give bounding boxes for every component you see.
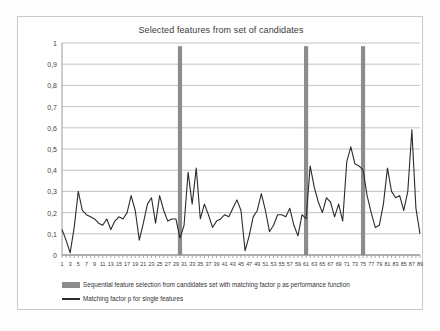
x-axis-tick-label: 45 bbox=[238, 261, 244, 267]
legend-bar-label: Sequential feature selection from candid… bbox=[83, 281, 350, 289]
x-axis-tick-label: 87 bbox=[409, 261, 415, 267]
x-axis-tick-label: 25 bbox=[157, 261, 163, 267]
legend-bar-swatch-icon bbox=[62, 282, 80, 288]
y-axis-tick-label: 0,7 bbox=[47, 104, 57, 111]
y-axis-tick-label: 0,3 bbox=[47, 188, 57, 195]
x-axis-tick-label: 27 bbox=[165, 261, 171, 267]
plot-area: 00,10,20,30,40,50,60,70,80,9113579111315… bbox=[18, 17, 424, 311]
x-axis-tick-label: 55 bbox=[279, 261, 285, 267]
selected-feature-bar bbox=[304, 46, 308, 255]
x-axis-tick-label: 53 bbox=[271, 261, 277, 267]
y-axis-tick-label: 0,2 bbox=[47, 210, 57, 217]
x-axis-tick-label: 41 bbox=[222, 261, 228, 267]
x-axis-tick-label: 5 bbox=[77, 261, 80, 267]
x-axis-tick-label: 43 bbox=[230, 261, 236, 267]
x-axis-tick-label: 13 bbox=[108, 261, 114, 267]
plot-svg: 00,10,20,30,40,50,60,70,80,9113579111315… bbox=[18, 17, 424, 311]
x-axis-tick-label: 11 bbox=[100, 261, 106, 267]
x-axis-tick-label: 85 bbox=[401, 261, 407, 267]
legend-item-bar: Sequential feature selection from candid… bbox=[62, 279, 422, 290]
selected-feature-bar bbox=[178, 46, 182, 255]
x-axis-tick-label: 17 bbox=[124, 261, 130, 267]
x-axis-tick-label: 51 bbox=[262, 261, 268, 267]
x-axis-tick-label: 31 bbox=[181, 261, 187, 267]
chart-screenshot: Selected features from set of candidates… bbox=[0, 0, 440, 331]
y-axis-tick-label: 0,6 bbox=[47, 125, 57, 132]
x-axis-tick-label: 67 bbox=[328, 261, 334, 267]
x-axis-tick-label: 15 bbox=[116, 261, 122, 267]
x-axis-tick-label: 73 bbox=[352, 261, 358, 267]
x-axis-tick-label: 29 bbox=[173, 261, 179, 267]
x-axis-tick-label: 81 bbox=[384, 261, 390, 267]
y-axis-tick-label: 0,4 bbox=[47, 167, 57, 174]
x-axis-tick-label: 57 bbox=[287, 261, 293, 267]
x-axis-tick-label: 9 bbox=[93, 261, 96, 267]
y-axis-tick-label: 0,5 bbox=[47, 146, 57, 153]
legend-line-swatch-icon bbox=[62, 298, 80, 300]
legend-item-line: Matching factor p for single features bbox=[62, 293, 422, 304]
x-axis-tick-label: 65 bbox=[319, 261, 325, 267]
x-axis-tick-label: 59 bbox=[295, 261, 301, 267]
x-axis-tick-label: 71 bbox=[344, 261, 350, 267]
x-axis-tick-label: 79 bbox=[376, 261, 382, 267]
x-axis-tick-label: 3 bbox=[69, 261, 72, 267]
x-axis-tick-label: 21 bbox=[140, 261, 146, 267]
selected-feature-bar bbox=[361, 46, 365, 255]
x-axis-tick-label: 19 bbox=[132, 261, 138, 267]
x-axis-tick-label: 49 bbox=[254, 261, 260, 267]
x-axis-tick-label: 33 bbox=[189, 261, 195, 267]
x-axis-tick-label: 7 bbox=[85, 261, 88, 267]
x-axis-tick-label: 77 bbox=[368, 261, 374, 267]
x-axis-tick-label: 47 bbox=[246, 261, 252, 267]
x-axis-tick-label: 83 bbox=[393, 261, 399, 267]
x-axis-tick-label: 63 bbox=[311, 261, 317, 267]
chart-legend: Sequential feature selection from candid… bbox=[62, 279, 422, 307]
x-axis-tick-label: 35 bbox=[197, 261, 203, 267]
legend-line-label: Matching factor p for single features bbox=[83, 295, 183, 303]
x-axis-tick-label: 75 bbox=[360, 261, 366, 267]
x-axis-tick-label: 1 bbox=[61, 261, 64, 267]
y-axis-tick-label: 0,9 bbox=[47, 61, 57, 68]
chart-frame: Selected features from set of candidates… bbox=[17, 16, 423, 310]
x-axis-tick-label: 39 bbox=[214, 261, 220, 267]
y-axis-tick-label: 0,1 bbox=[47, 231, 57, 238]
y-axis-tick-label: 0,8 bbox=[47, 82, 57, 89]
y-axis-tick-label: 0 bbox=[53, 252, 57, 259]
y-axis-tick-label: 1 bbox=[53, 40, 57, 47]
x-axis-tick-label: 23 bbox=[149, 261, 155, 267]
x-axis-tick-label: 89 bbox=[417, 261, 423, 267]
x-axis-tick-label: 61 bbox=[303, 261, 309, 267]
x-axis-tick-label: 69 bbox=[336, 261, 342, 267]
x-axis-tick-label: 37 bbox=[205, 261, 211, 267]
